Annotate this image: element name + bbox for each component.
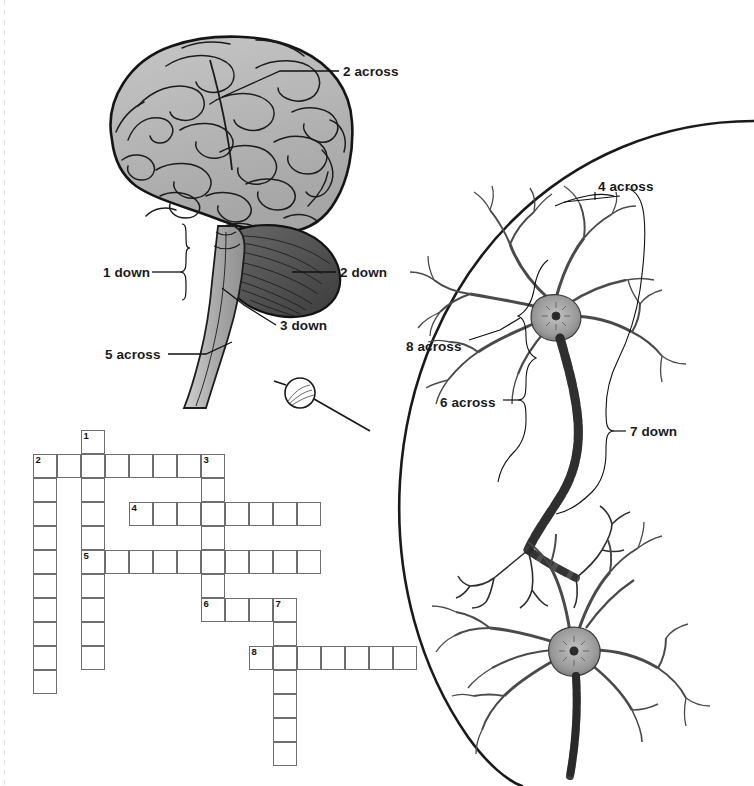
crossword-cell[interactable] bbox=[81, 478, 105, 502]
crossword-cell[interactable] bbox=[177, 502, 201, 526]
crossword-cell[interactable] bbox=[177, 550, 201, 574]
crossword-cell[interactable] bbox=[153, 502, 177, 526]
crossword-cell[interactable] bbox=[33, 670, 57, 694]
worksheet-page: 2 across1 down2 down3 down5 across4 acro… bbox=[0, 0, 754, 786]
crossword-cell-number: 6 bbox=[204, 599, 209, 609]
label-4-across: 4 across bbox=[598, 180, 654, 194]
crossword-cell[interactable] bbox=[273, 718, 297, 742]
crossword-cell[interactable] bbox=[201, 526, 225, 550]
crossword-cell-number: 3 bbox=[204, 455, 209, 465]
crossword-cell[interactable] bbox=[33, 574, 57, 598]
crossword-cell[interactable] bbox=[81, 646, 105, 670]
crossword-cell[interactable] bbox=[81, 574, 105, 598]
crossword-cell[interactable] bbox=[153, 550, 177, 574]
crossword-cell-numbered[interactable]: 8 bbox=[249, 646, 273, 670]
crossword-cell[interactable] bbox=[273, 502, 297, 526]
crossword-cell[interactable] bbox=[273, 694, 297, 718]
crossword-cell[interactable] bbox=[273, 742, 297, 766]
crossword-cell-numbered[interactable]: 5 bbox=[81, 550, 105, 574]
crossword-cell[interactable] bbox=[345, 646, 369, 670]
crossword-cell[interactable] bbox=[201, 502, 225, 526]
crossword-cell[interactable] bbox=[321, 646, 345, 670]
label-5-across: 5 across bbox=[105, 348, 161, 362]
crossword-cell[interactable] bbox=[105, 550, 129, 574]
crossword-cell[interactable] bbox=[249, 502, 273, 526]
crossword-cell[interactable] bbox=[225, 598, 249, 622]
label-2-across: 2 across bbox=[343, 65, 399, 79]
label-3-down: 3 down bbox=[280, 319, 327, 333]
crossword-cell-numbered[interactable]: 7 bbox=[273, 598, 297, 622]
crossword-cell[interactable] bbox=[273, 550, 297, 574]
crossword-cell[interactable] bbox=[129, 550, 153, 574]
crossword-cell[interactable] bbox=[225, 550, 249, 574]
crossword-cell[interactable] bbox=[33, 502, 57, 526]
label-6-across: 6 across bbox=[440, 396, 496, 410]
crossword-cell-numbered[interactable]: 4 bbox=[129, 502, 153, 526]
crossword-cell[interactable] bbox=[225, 502, 249, 526]
crossword-cell[interactable] bbox=[33, 478, 57, 502]
crossword-cell[interactable] bbox=[273, 670, 297, 694]
crossword-cell[interactable] bbox=[201, 478, 225, 502]
crossword-cell-number: 7 bbox=[276, 599, 281, 609]
crossword-cell-numbered[interactable]: 6 bbox=[201, 598, 225, 622]
label-7-down: 7 down bbox=[630, 425, 677, 439]
crossword-cell-numbered[interactable]: 3 bbox=[201, 454, 225, 478]
crossword-cell-number: 8 bbox=[252, 647, 257, 657]
crossword-cell[interactable] bbox=[57, 454, 81, 478]
label-8-across: 8 across bbox=[406, 340, 462, 354]
crossword-cell[interactable] bbox=[81, 622, 105, 646]
crossword-cell[interactable] bbox=[105, 454, 129, 478]
crossword-cell[interactable] bbox=[33, 622, 57, 646]
crossword-cell[interactable] bbox=[177, 454, 201, 478]
crossword-cell-number: 4 bbox=[132, 503, 137, 513]
crossword-cell[interactable] bbox=[249, 598, 273, 622]
crossword-cell[interactable] bbox=[297, 550, 321, 574]
crossword-cell[interactable] bbox=[201, 550, 225, 574]
crossword-cell[interactable] bbox=[81, 598, 105, 622]
crossword-cell-numbered[interactable]: 1 bbox=[81, 430, 105, 454]
crossword-cell[interactable] bbox=[33, 550, 57, 574]
crossword-cell[interactable] bbox=[33, 646, 57, 670]
crossword-cell-number: 1 bbox=[84, 431, 89, 441]
crossword-cell[interactable] bbox=[297, 502, 321, 526]
crossword-cell[interactable] bbox=[129, 454, 153, 478]
crossword-cell[interactable] bbox=[201, 574, 225, 598]
crossword-cell[interactable] bbox=[33, 598, 57, 622]
label-2-down: 2 down bbox=[340, 266, 387, 280]
crossword-cell[interactable] bbox=[81, 454, 105, 478]
crossword-cell[interactable] bbox=[273, 646, 297, 670]
crossword-cell[interactable] bbox=[369, 646, 393, 670]
crossword-cell[interactable] bbox=[81, 526, 105, 550]
crossword-cell[interactable] bbox=[81, 502, 105, 526]
crossword-cell-number: 2 bbox=[36, 455, 41, 465]
crossword-cell[interactable] bbox=[249, 550, 273, 574]
crossword-cell-numbered[interactable]: 2 bbox=[33, 454, 57, 478]
label-1-down: 1 down bbox=[103, 266, 150, 280]
crossword-cell[interactable] bbox=[393, 646, 417, 670]
crossword-cell-number: 5 bbox=[84, 551, 89, 561]
crossword-cell[interactable] bbox=[273, 622, 297, 646]
crossword-cell[interactable] bbox=[153, 454, 177, 478]
crossword-cell[interactable] bbox=[297, 646, 321, 670]
crossword-cell[interactable] bbox=[33, 526, 57, 550]
